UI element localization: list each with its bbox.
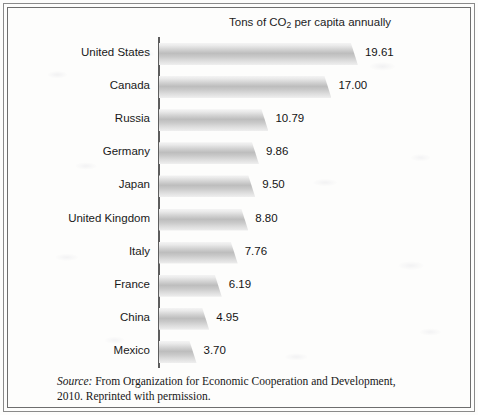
bar — [159, 341, 197, 363]
bar-value-label: 17.00 — [338, 79, 367, 91]
bar — [159, 43, 358, 65]
bar — [159, 76, 331, 98]
bar-row: Japan9.50 — [0, 169, 478, 202]
bar-row: Russia10.79 — [0, 103, 478, 136]
bar — [159, 142, 259, 164]
bar — [159, 242, 238, 264]
bar-value-label: 10.79 — [275, 112, 304, 124]
source-label: Source: — [57, 375, 92, 387]
bar-row: Italy7.76 — [0, 236, 478, 269]
bar-value-label: 9.50 — [262, 178, 284, 190]
bar-row: Mexico3.70 — [0, 335, 478, 368]
bar-category-label: Germany — [0, 145, 150, 157]
chart-title: Tons of CO2 per capita annually — [160, 16, 460, 28]
bar-row: France6.19 — [0, 269, 478, 302]
bar-row: China4.95 — [0, 302, 478, 335]
bar-row: United States19.61 — [0, 37, 478, 70]
bar-category-label: Canada — [0, 79, 150, 91]
bar — [159, 275, 222, 297]
bar-category-label: United Kingdom — [0, 212, 150, 224]
bar-row: Germany9.86 — [0, 136, 478, 169]
bar-value-label: 8.80 — [255, 212, 277, 224]
bar — [159, 109, 268, 131]
chart-title-suffix: per capita annually — [291, 16, 391, 28]
bar-category-label: France — [0, 278, 150, 290]
bar — [159, 209, 248, 231]
bar-value-label: 6.19 — [229, 278, 251, 290]
bar-category-label: Japan — [0, 178, 150, 190]
bar-value-label: 3.70 — [204, 344, 226, 356]
bar-value-label: 9.86 — [266, 145, 288, 157]
figure-container: Tons of CO2 per capita annually United S… — [0, 0, 478, 415]
bar-value-label: 7.76 — [245, 245, 267, 257]
bar-row: United Kingdom8.80 — [0, 203, 478, 236]
bar — [159, 308, 209, 330]
bar — [159, 175, 255, 197]
source-caption: Source: From Organization for Economic C… — [57, 374, 407, 403]
chart-title-subscript: 2 — [287, 20, 292, 30]
bar-category-label: China — [0, 311, 150, 323]
bar-category-label: Italy — [0, 245, 150, 257]
chart-title-prefix: Tons of CO — [229, 16, 287, 28]
source-text: From Organization for Economic Cooperati… — [57, 375, 396, 402]
bar-row: Canada17.00 — [0, 70, 478, 103]
bar-category-label: Mexico — [0, 344, 150, 356]
bar-category-label: Russia — [0, 112, 150, 124]
bar-value-label: 4.95 — [216, 311, 238, 323]
bar-category-label: United States — [0, 46, 150, 58]
bar-value-label: 19.61 — [365, 46, 394, 58]
bar-chart-plot-area: Tons of CO2 per capita annually United S… — [0, 0, 478, 415]
